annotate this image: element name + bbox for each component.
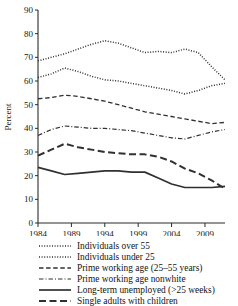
legend-label: Individuals over 55: [77, 241, 150, 251]
series-line-4: [38, 167, 225, 187]
series-line-5: [38, 144, 225, 189]
y-tick-label: 20: [24, 171, 34, 181]
y-axis-title: Percent: [3, 103, 13, 130]
y-tick-label: 70: [24, 52, 34, 62]
x-tick-label: 1999: [129, 229, 148, 236]
legend-swatch-1: [38, 252, 72, 262]
chart-figure: 0102030405060708090 19841989199419992004…: [0, 0, 238, 306]
y-tick-label: 60: [24, 76, 34, 86]
series-line-2: [38, 95, 225, 123]
series-lines: [38, 41, 225, 189]
y-tick-label: 10: [24, 194, 34, 204]
legend-swatch-3: [38, 274, 72, 284]
legend-item[interactable]: Single adults with children: [38, 295, 238, 306]
legend-item[interactable]: Long-term unemployed (>25 weeks): [38, 284, 238, 295]
x-tick-label: 1984: [29, 229, 48, 236]
y-tick-label: 0: [29, 218, 34, 228]
y-axis: 0102030405060708090: [24, 5, 38, 228]
legend-label: Prime working age (25–55 years): [77, 263, 203, 273]
y-tick-label: 90: [24, 5, 34, 15]
y-tick-label: 30: [24, 147, 34, 157]
y-tick-label: 40: [24, 123, 34, 133]
x-tick-label: 2004: [163, 229, 182, 236]
legend-item[interactable]: Prime working age nonwhite: [38, 273, 238, 284]
chart-plot-area: 0102030405060708090 19841989199419992004…: [0, 0, 238, 236]
legend-item[interactable]: Individuals over 55: [38, 240, 238, 251]
x-axis: 198419891994199920042009: [29, 223, 225, 236]
legend-swatch-5: [38, 296, 72, 306]
series-line-1: [38, 68, 225, 94]
legend-swatch-4: [38, 285, 72, 295]
series-line-0: [38, 41, 225, 80]
legend-swatch-2: [38, 263, 72, 273]
line-chart-svg: 0102030405060708090 19841989199419992004…: [0, 0, 238, 236]
x-tick-label: 1994: [96, 229, 115, 236]
legend-label: Long-term unemployed (>25 weeks): [77, 285, 215, 295]
legend-swatch-0: [38, 241, 72, 251]
series-line-3: [38, 126, 225, 139]
legend-label: Single adults with children: [77, 296, 178, 306]
chart-legend: Individuals over 55Individuals under 25P…: [38, 240, 238, 306]
legend-label: Individuals under 25: [77, 252, 155, 262]
y-tick-label: 50: [24, 100, 34, 110]
y-tick-label: 80: [24, 29, 34, 39]
legend-label: Prime working age nonwhite: [77, 274, 186, 284]
x-tick-label: 2009: [196, 229, 215, 236]
x-tick-label: 1989: [62, 229, 81, 236]
legend-item[interactable]: Individuals under 25: [38, 251, 238, 262]
legend-item[interactable]: Prime working age (25–55 years): [38, 262, 238, 273]
